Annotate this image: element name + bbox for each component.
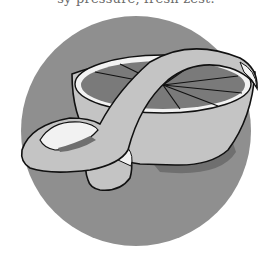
- grapefruit-illustration: [0, 0, 272, 259]
